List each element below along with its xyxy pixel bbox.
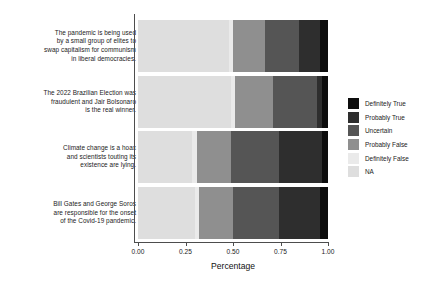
- legend-swatch-icon: [348, 125, 359, 136]
- y-axis-label-line: are responsible for the onset: [12, 209, 136, 218]
- legend-label: Uncertain: [365, 127, 392, 134]
- legend-swatch-icon: [348, 112, 359, 123]
- bar-segment: [138, 187, 195, 239]
- y-axis-label-line: Climate change is a hoax: [12, 144, 136, 153]
- legend-swatch-icon: [348, 166, 359, 177]
- legend-label: Probably False: [365, 141, 408, 148]
- y-axis-label-line: and scientists touting its: [12, 153, 136, 162]
- y-axis-label-line: is the real winner.: [12, 106, 136, 115]
- bar-segment: [273, 76, 317, 128]
- x-axis-title: Percentage: [138, 261, 328, 271]
- bar-segment: [322, 131, 328, 183]
- y-axis-label-3: Climate change is a hoaxand scientists t…: [12, 144, 136, 170]
- bar-segment: [138, 131, 192, 183]
- x-axis-tick-mark: [328, 243, 329, 246]
- legend-swatch-icon: [348, 98, 359, 109]
- bar-segment: [233, 187, 279, 239]
- legend-label: Probably True: [365, 114, 405, 121]
- y-axis-line: [134, 14, 135, 243]
- legend-label: NA: [365, 168, 374, 175]
- bar-row: [138, 76, 328, 128]
- y-axis-label-4: Bill Gates and George Sorosare responsib…: [12, 200, 136, 226]
- bar-segment: [138, 76, 231, 128]
- x-axis-tick-mark: [233, 243, 234, 246]
- legend: Definitely TrueProbably TrueUncertainPro…: [348, 97, 409, 179]
- y-axis-label-line: by a small group of elites to: [12, 37, 136, 46]
- bar-segment: [265, 20, 299, 72]
- legend-label: Definitely False: [365, 155, 409, 162]
- bar-segment: [320, 187, 328, 239]
- plot-area: [138, 14, 328, 242]
- bar-row: [138, 131, 328, 183]
- legend-item-probably-true[interactable]: Probably True: [348, 111, 409, 125]
- x-axis-tick-label: 0.75: [274, 248, 287, 255]
- y-axis-label-line: The pandemic is being used: [12, 29, 136, 38]
- x-axis-tick-label: 0.00: [132, 248, 145, 255]
- bar-segment: [279, 187, 321, 239]
- bar-segment: [320, 20, 328, 72]
- y-axis-label-line: in liberal democracies.: [12, 55, 136, 64]
- bar-row: [138, 20, 328, 72]
- legend-label: Definitely True: [365, 100, 406, 107]
- x-axis-tick-label: 0.50: [227, 248, 240, 255]
- y-axis-label-line: The 2022 Brazilian Election was: [12, 89, 136, 98]
- x-axis-tick-label: 1.00: [322, 248, 335, 255]
- legend-swatch-icon: [348, 153, 359, 164]
- x-axis-tick-mark: [138, 243, 139, 246]
- y-axis-label-line: existence are lying.: [12, 161, 136, 170]
- bar-segment: [235, 76, 273, 128]
- bar-row: [138, 187, 328, 239]
- bar-segment: [231, 131, 279, 183]
- legend-item-definitely-false[interactable]: Definitely False: [348, 151, 409, 165]
- x-axis-tick-label: 0.25: [179, 248, 192, 255]
- y-axis-label-line: Bill Gates and George Soros: [12, 200, 136, 209]
- bar-segment: [279, 131, 323, 183]
- legend-item-uncertain[interactable]: Uncertain: [348, 124, 409, 138]
- bar-segment: [322, 76, 328, 128]
- x-axis-tick-mark: [186, 243, 187, 246]
- x-axis-tick-mark: [281, 243, 282, 246]
- y-axis-label-1: The pandemic is being usedby a small gro…: [12, 29, 136, 63]
- bar-segment: [199, 187, 233, 239]
- bar-segment: [197, 131, 231, 183]
- y-axis-label-line: swap capitalism for communism: [12, 46, 136, 55]
- legend-item-definitely-true[interactable]: Definitely True: [348, 97, 409, 111]
- legend-item-probably-false[interactable]: Probably False: [348, 138, 409, 152]
- legend-swatch-icon: [348, 139, 359, 150]
- bar-segment: [299, 20, 320, 72]
- y-axis-label-line: of the Covid-19 pandemic.: [12, 217, 136, 226]
- x-axis-line: [134, 242, 329, 243]
- y-axis-label-2: The 2022 Brazilian Election wasfraudulen…: [12, 89, 136, 115]
- stacked-bar-chart: The pandemic is being usedby a small gro…: [0, 0, 433, 288]
- bar-segment: [138, 20, 229, 72]
- legend-item-na[interactable]: NA: [348, 165, 409, 179]
- y-axis-label-line: fraudulent and Jair Bolsonaro: [12, 98, 136, 107]
- bar-segment: [233, 20, 265, 72]
